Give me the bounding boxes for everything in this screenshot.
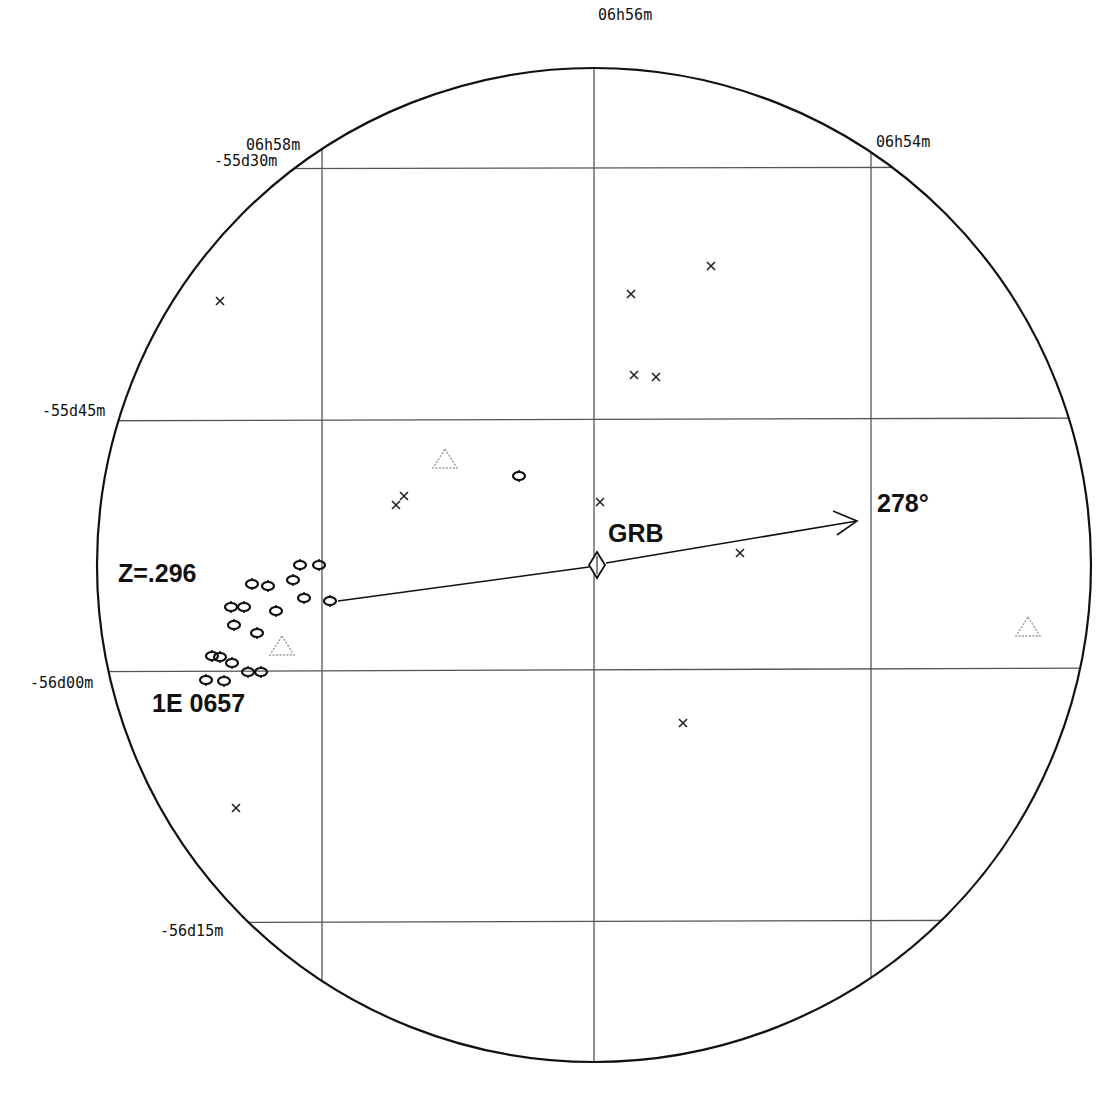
x-source-cross-icon[interactable] (736, 549, 744, 557)
x-source-cross-icon[interactable] (630, 371, 638, 379)
dec-label-56d15m: -56d15m (160, 922, 223, 940)
x-source-cross-icon[interactable] (392, 501, 400, 509)
x-source-cross-icon[interactable] (232, 804, 240, 812)
x-source-cross-icon[interactable] (707, 262, 715, 270)
galaxy-ellipse-icon[interactable] (218, 675, 230, 687)
dec-label-55d45m: -55d45m (42, 402, 105, 420)
redshift-label: Z=.296 (118, 559, 197, 587)
x-source-cross-icon[interactable] (400, 492, 408, 500)
dec-label-55d30m: -55d30m (214, 152, 277, 170)
galaxy-ellipse-icon[interactable] (313, 559, 325, 571)
galaxy-ellipse-icon[interactable] (513, 470, 525, 482)
galaxy-ellipse-icon[interactable] (287, 574, 299, 586)
dec-label-56d00m: -56d00m (30, 674, 93, 692)
cluster-label: 1E 0657 (152, 689, 245, 717)
dec-line-56d00m (0, 668, 1111, 672)
triangle-source-icon[interactable] (270, 636, 294, 655)
x-source-cross-icon[interactable] (652, 373, 660, 381)
x-source-cross-icon[interactable] (627, 290, 635, 298)
position-angle-label: 278° (877, 489, 929, 517)
triangle-source-icon[interactable] (1016, 617, 1040, 636)
galaxy-ellipse-icon[interactable] (270, 605, 282, 617)
x-source-cross-icon[interactable] (216, 297, 224, 305)
galaxy-ellipse-icon[interactable] (200, 674, 212, 686)
cluster-link-line (338, 567, 589, 601)
triangle-source-icon[interactable] (433, 449, 457, 468)
galaxy-ellipse-icon[interactable] (298, 592, 310, 604)
galaxy-ellipse-icon[interactable] (294, 559, 306, 571)
galaxy-ellipse-icon[interactable] (255, 666, 267, 678)
galaxy-ellipse-icon[interactable] (262, 580, 274, 592)
grb-label: GRB (608, 519, 664, 547)
galaxy-ellipse-icon[interactable] (324, 595, 336, 607)
galaxy-ellipse-icon[interactable] (226, 657, 238, 669)
x-source-cross-icon[interactable] (679, 719, 687, 727)
dec-line-55d45m (0, 418, 1111, 421)
sky-chart: 06h56m 06h58m 06h54m -55d30m -55d45m -56… (0, 0, 1111, 1103)
galaxy-ellipse-icon[interactable] (251, 627, 263, 639)
galaxy-ellipse-icon[interactable] (242, 666, 254, 678)
galaxy-ellipse-icon[interactable] (228, 619, 240, 631)
ra-label-06h56m: 06h56m (598, 6, 652, 24)
galaxy-ellipse-icon[interactable] (246, 578, 258, 590)
dec-line-55d30m (0, 167, 1111, 169)
ra-label-06h54m: 06h54m (876, 133, 930, 151)
galaxy-ellipse-icon[interactable] (225, 601, 237, 613)
x-source-cross-icon[interactable] (596, 498, 604, 506)
galaxy-ellipse-icon[interactable] (238, 601, 250, 613)
